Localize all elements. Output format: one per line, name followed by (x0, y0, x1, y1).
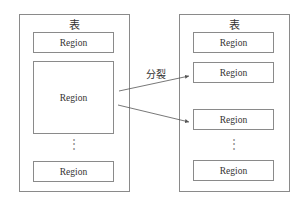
arrow-up-icon (119, 76, 189, 91)
split-arrows (0, 0, 307, 202)
arrow-down-icon (118, 105, 189, 122)
